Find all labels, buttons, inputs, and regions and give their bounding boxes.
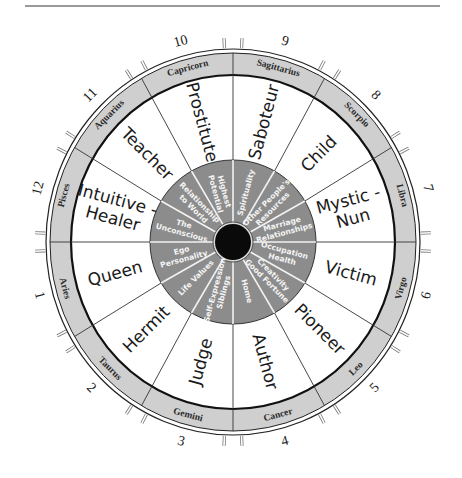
house-number: 10 xyxy=(172,32,189,50)
hub-disc xyxy=(215,224,251,260)
archetype-wheel: Sagittarius9SaboteurSpiritualityScorpio8… xyxy=(0,0,462,478)
house-number: 8 xyxy=(368,87,384,103)
house-number: 9 xyxy=(280,33,291,49)
house-number: 2 xyxy=(84,380,100,396)
house-number: 1 xyxy=(32,290,48,301)
house-number: 6 xyxy=(418,290,434,301)
house-number: 12 xyxy=(29,179,47,196)
house-number: 5 xyxy=(366,380,382,396)
house-number: 4 xyxy=(279,433,290,449)
house-number: 7 xyxy=(420,183,436,194)
house-number: 3 xyxy=(176,433,187,449)
house-number: 11 xyxy=(80,85,100,105)
